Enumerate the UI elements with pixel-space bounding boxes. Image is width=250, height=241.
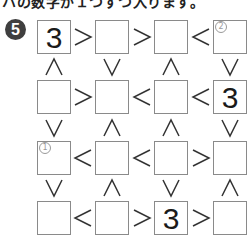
grid-cell-r3-c1[interactable]: 1 — [37, 141, 71, 175]
greater-than-sign-icon — [73, 87, 93, 107]
grid-cell-r4-c4[interactable] — [213, 201, 247, 235]
down-greater-than-sign-icon — [44, 118, 64, 138]
circled-hint-number: 1 — [39, 142, 51, 154]
cell-value: 3 — [38, 22, 70, 54]
up-less-than-sign-icon — [102, 118, 122, 138]
circled-hint-number: 2 — [215, 21, 227, 33]
greater-than-sign-icon — [132, 27, 152, 47]
greater-than-sign-icon — [132, 208, 152, 228]
up-less-than-sign-icon — [44, 57, 64, 77]
grid-cell-r2-c4[interactable]: 3 — [213, 80, 247, 114]
grid-cell-r1-c2[interactable] — [95, 20, 129, 54]
grid-cell-r4-c1[interactable] — [37, 201, 71, 235]
grid-cell-r3-c3[interactable] — [154, 141, 188, 175]
up-less-than-sign-icon — [161, 118, 181, 138]
less-than-sign-icon — [191, 27, 211, 47]
grid-cell-r2-c2[interactable] — [95, 80, 129, 114]
grid-cell-r3-c4[interactable] — [213, 141, 247, 175]
greater-than-sign-icon — [191, 208, 211, 228]
less-than-sign-icon — [132, 148, 152, 168]
up-less-than-sign-icon — [161, 57, 181, 77]
down-greater-than-sign-icon — [220, 57, 240, 77]
grid-cell-r1-c4[interactable]: 2 — [213, 20, 247, 54]
grid-cell-r4-c3[interactable]: 3 — [154, 201, 188, 235]
grid-cell-r1-c1[interactable]: 3 — [37, 20, 71, 54]
cell-value: 3 — [155, 203, 187, 235]
instruction-text: ハの数字が１つずつ入ります。 — [2, 0, 204, 11]
problem-number-badge: 5 — [5, 19, 26, 40]
grid-cell-r2-c3[interactable] — [154, 80, 188, 114]
less-than-sign-icon — [73, 148, 93, 168]
grid-cell-r2-c1[interactable] — [37, 80, 71, 114]
down-greater-than-sign-icon — [44, 178, 64, 198]
less-than-sign-icon — [73, 208, 93, 228]
grid-cell-r4-c2[interactable] — [95, 201, 129, 235]
up-less-than-sign-icon — [102, 178, 122, 198]
down-greater-than-sign-icon — [102, 57, 122, 77]
grid-cell-r1-c3[interactable] — [154, 20, 188, 54]
greater-than-sign-icon — [73, 27, 93, 47]
up-less-than-sign-icon — [220, 178, 240, 198]
less-than-sign-icon — [191, 87, 211, 107]
greater-than-sign-icon — [191, 148, 211, 168]
cell-value: 3 — [214, 82, 246, 114]
down-greater-than-sign-icon — [161, 178, 181, 198]
down-greater-than-sign-icon — [220, 118, 240, 138]
grid-cell-r3-c2[interactable] — [95, 141, 129, 175]
less-than-sign-icon — [132, 87, 152, 107]
